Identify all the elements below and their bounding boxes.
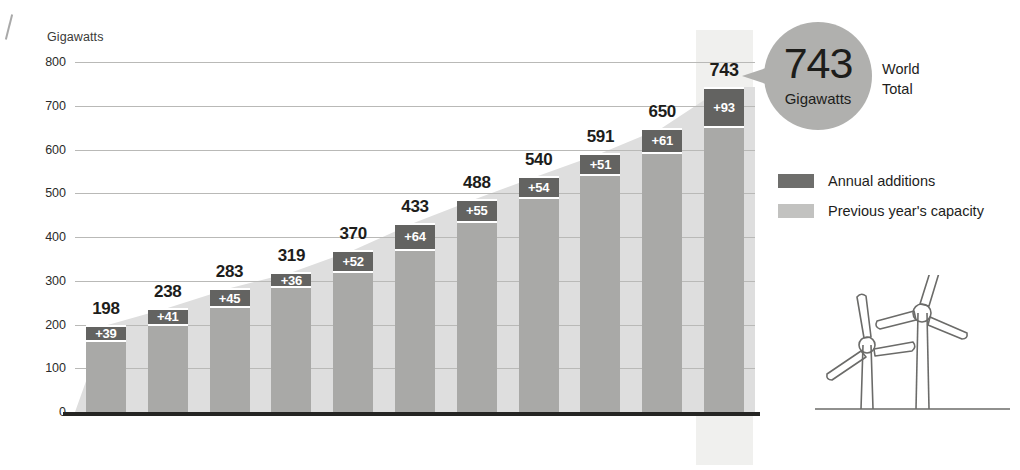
callout-side-line2: Total xyxy=(882,80,920,100)
y-tick-label-800: 800 xyxy=(45,55,66,69)
total-label-2020: 743 xyxy=(710,60,739,81)
legend-swatch-icon xyxy=(778,174,814,188)
chart-canvas: Gigawatts 8007006005004003002001000 +391… xyxy=(0,0,1020,470)
bar-segment-previous-capacity-2017 xyxy=(519,176,559,412)
y-tick-label-600: 600 xyxy=(45,143,66,157)
bar-segment-annual-addition-2016: +55 xyxy=(457,199,497,223)
annual-addition-label-2010: +39 xyxy=(95,327,116,340)
bar-2014[interactable]: +52370 xyxy=(333,250,373,412)
bar-segment-annual-addition-2018: +51 xyxy=(580,153,620,175)
bar-segment-annual-addition-2011: +41 xyxy=(148,308,188,326)
bar-segment-annual-addition-2012: +45 xyxy=(210,288,250,308)
total-label-2015: 433 xyxy=(401,197,428,217)
bar-segment-annual-addition-2020: +93 xyxy=(704,87,744,128)
total-label-2018: 591 xyxy=(587,127,614,147)
bar-2010[interactable]: +39198 xyxy=(86,325,126,412)
legend-item-previous-capacity[interactable]: Previous year's capacity xyxy=(778,202,1013,220)
total-label-2012: 283 xyxy=(216,262,243,282)
callout-unit: Gigawatts xyxy=(764,90,872,107)
bar-segment-annual-addition-2010: +39 xyxy=(86,325,126,342)
bar-segment-previous-capacity-2015 xyxy=(395,223,435,412)
legend-swatch-icon xyxy=(778,204,814,218)
legend-label: Previous year's capacity xyxy=(828,202,984,220)
callout-side-text: World Total xyxy=(882,60,920,99)
bar-segment-annual-addition-2014: +52 xyxy=(333,250,373,273)
bar-segment-previous-capacity-2020 xyxy=(704,87,744,412)
annual-addition-label-2018: +51 xyxy=(590,158,611,171)
bar-segment-previous-capacity-2018 xyxy=(580,153,620,412)
total-label-2016: 488 xyxy=(463,173,490,193)
crop-artifact-mark xyxy=(5,14,13,40)
bar-segment-annual-addition-2015: +64 xyxy=(395,223,435,251)
y-tick-label-500: 500 xyxy=(45,186,66,200)
turbine-left-icon xyxy=(827,294,915,409)
turbine-right-icon xyxy=(876,275,967,409)
bar-2013[interactable]: +36319 xyxy=(271,272,311,412)
total-label-2014: 370 xyxy=(339,224,366,244)
total-label-2010: 198 xyxy=(92,299,119,319)
annual-addition-label-2014: +52 xyxy=(342,255,363,268)
x-axis-baseline xyxy=(63,412,760,416)
gridline-800 xyxy=(75,62,755,63)
world-total-callout: 743 Gigawatts World Total xyxy=(742,22,872,144)
annual-addition-label-2013: +36 xyxy=(281,274,302,287)
bar-segment-previous-capacity-2014 xyxy=(333,250,373,412)
y-tick-label-300: 300 xyxy=(45,274,66,288)
y-tick-label-700: 700 xyxy=(45,99,66,113)
annual-addition-label-2011: +41 xyxy=(157,310,178,323)
total-label-2011: 238 xyxy=(154,282,181,302)
bar-segment-previous-capacity-2019 xyxy=(642,128,682,412)
y-tick-label-100: 100 xyxy=(45,361,66,375)
bar-2011[interactable]: +41238 xyxy=(148,308,188,412)
bar-2020[interactable]: +93743 xyxy=(704,87,744,412)
total-label-2013: 319 xyxy=(278,246,305,266)
plot-area: 8007006005004003002001000 +39198+41238+4… xyxy=(75,62,755,412)
callout-side-line1: World xyxy=(882,60,920,80)
y-tick-label-200: 200 xyxy=(45,318,66,332)
bar-segment-annual-addition-2017: +54 xyxy=(519,176,559,200)
bar-segment-annual-addition-2013: +36 xyxy=(271,272,311,288)
legend-item-annual-additions[interactable]: Annual additions xyxy=(778,172,1013,190)
legend-label: Annual additions xyxy=(828,172,935,190)
y-axis-title: Gigawatts xyxy=(47,30,103,44)
annual-addition-label-2020: +93 xyxy=(713,101,734,114)
y-tick-label-400: 400 xyxy=(45,230,66,244)
bar-2017[interactable]: +54540 xyxy=(519,176,559,412)
chart-legend: Annual additionsPrevious year's capacity xyxy=(778,172,1013,232)
callout-value: 743 xyxy=(764,42,872,85)
annual-addition-label-2015: +64 xyxy=(404,230,425,243)
annual-addition-label-2019: +61 xyxy=(652,134,673,147)
bar-2016[interactable]: +55488 xyxy=(457,199,497,413)
bar-segment-previous-capacity-2016 xyxy=(457,199,497,413)
bar-segment-annual-addition-2019: +61 xyxy=(642,128,682,155)
wind-turbines-illustration xyxy=(815,275,1010,420)
annual-addition-label-2016: +55 xyxy=(466,204,487,217)
total-label-2017: 540 xyxy=(525,150,552,170)
annual-addition-label-2012: +45 xyxy=(219,292,240,305)
bar-2015[interactable]: +64433 xyxy=(395,223,435,412)
bar-2018[interactable]: +51591 xyxy=(580,153,620,412)
annual-addition-label-2017: +54 xyxy=(528,181,549,194)
bar-2012[interactable]: +45283 xyxy=(210,288,250,412)
total-label-2019: 650 xyxy=(649,102,676,122)
bar-segment-previous-capacity-2013 xyxy=(271,272,311,412)
bar-2019[interactable]: +61650 xyxy=(642,128,682,412)
